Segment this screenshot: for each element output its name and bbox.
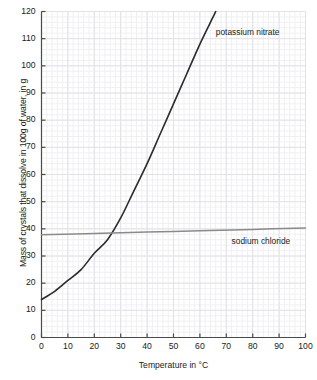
x-tick-label: 40 [134,341,160,351]
y-tick-label: 120 [10,6,36,16]
x-tick-label: 10 [55,341,81,351]
x-tick-label: 80 [240,341,266,351]
y-tick-label: 70 [10,141,36,151]
y-tick-label: 40 [10,223,36,233]
x-tick-label: 70 [213,341,239,351]
y-tick-label: 90 [10,87,36,97]
series-label-potassium-nitrate: potassium nitrate [216,27,280,37]
y-tick-label: 10 [10,304,36,314]
solubility-chart: Mass of crystals that dissolve in 100g o… [0,0,316,380]
series-label-sodium-chloride: sodium chloride [232,236,291,246]
x-tick-label: 90 [266,341,292,351]
y-tick-label: 80 [10,114,36,124]
x-tick-label: 60 [187,341,213,351]
y-tick-label: 60 [10,169,36,179]
x-axis-title: Temperature in °C [41,360,306,370]
x-tick-label: 30 [108,341,134,351]
y-tick-label: 50 [10,196,36,206]
x-tick-label: 0 [29,341,55,351]
x-tick-label: 100 [293,341,317,351]
y-tick-label: 30 [10,250,36,260]
plot-area [0,0,316,380]
x-tick-label: 50 [161,341,187,351]
y-tick-label: 100 [10,60,36,70]
y-tick-label: 20 [10,277,36,287]
x-tick-label: 20 [81,341,107,351]
y-tick-label: 110 [10,33,36,43]
